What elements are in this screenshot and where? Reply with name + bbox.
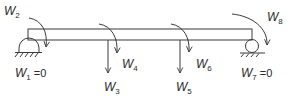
label-w2: W2	[4, 4, 20, 20]
pin-support-icon	[15, 38, 42, 57]
label-w8: W8	[267, 10, 283, 26]
beam-diagram: W2 W1 =0 W3 W4 W5 W6 W7 =0 W8	[0, 0, 290, 100]
label-w4: W4	[122, 57, 138, 73]
roller-support-icon	[240, 40, 265, 58]
label-w6: W6	[196, 57, 212, 73]
label-w3: W3	[104, 80, 120, 96]
beam	[28, 29, 252, 40]
label-w1: W1 =0	[15, 66, 46, 82]
label-w7: W7 =0	[241, 66, 272, 82]
label-w5: W5	[176, 80, 192, 96]
